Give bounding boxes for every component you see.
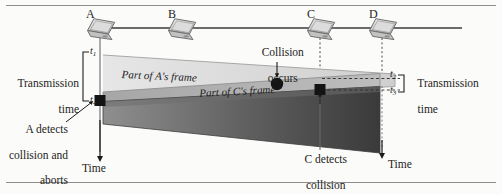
time-axis-label-left: Time: [82, 162, 106, 175]
laptop-icon-b: [169, 19, 196, 40]
time-mark-t1: t1: [90, 45, 96, 59]
a-detects-label: A detects collision and aborts: [0, 110, 68, 194]
laptop-icon-a: [88, 19, 115, 40]
transmission-time-bracket-right: [398, 75, 404, 92]
laptop-icon-d: [370, 19, 397, 40]
time-mark-t4: t4: [90, 94, 96, 108]
node-label-c: C: [307, 8, 315, 21]
time-mark-t3: t3: [390, 84, 396, 98]
node-label-b: B: [168, 8, 176, 21]
transmission-time-label-right: Transmission time: [406, 64, 479, 128]
figure-canvas: A B C D t1 t4 t2 t3 Transmission time Tr…: [0, 0, 502, 194]
transmission-time-bracket-left: [83, 52, 89, 101]
node-label-d: D: [369, 8, 378, 21]
time-mark-t2: t2: [390, 68, 396, 82]
node-label-a: A: [86, 8, 95, 21]
time-axis-label-right: Time: [388, 158, 412, 171]
c-detects-label: C detects collision and aborts: [272, 140, 368, 194]
